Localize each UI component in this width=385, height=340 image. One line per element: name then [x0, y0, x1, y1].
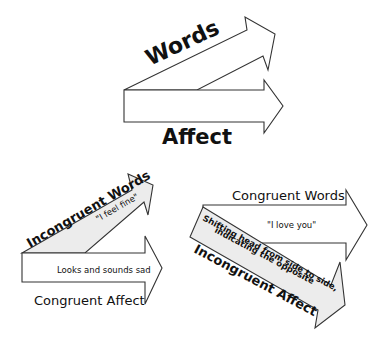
top-diagram: Words Affect: [124, 15, 283, 149]
right-diagram: Congruent Words "I love you" Shifting he…: [190, 188, 367, 328]
communication-diagram: Words Affect Incongruent Words "I feel f…: [0, 0, 385, 340]
left-diagram: Incongruent Words "I feel fine" Looks an…: [22, 167, 162, 308]
words-quote-i-love-you: "I love you": [267, 220, 316, 230]
congruent-words-label: Congruent Words: [232, 188, 345, 203]
affect-inner-text: Looks and sounds sad: [57, 265, 151, 275]
affect-label: Affect: [162, 125, 232, 149]
congruent-affect-label: Congruent Affect: [34, 293, 145, 308]
